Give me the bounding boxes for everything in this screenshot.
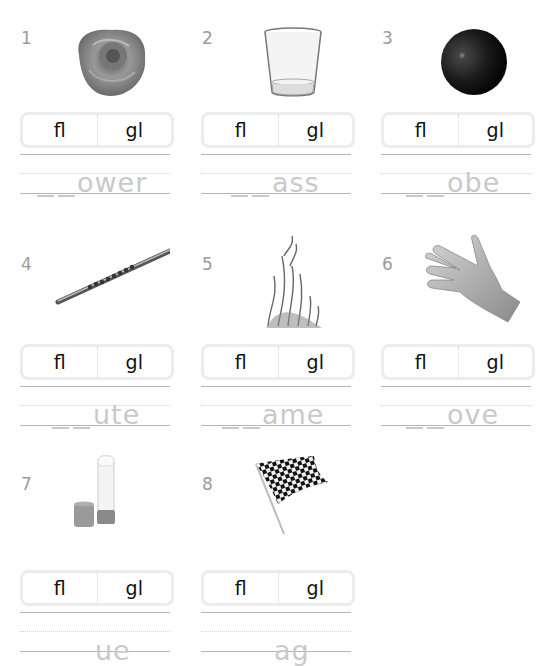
flame-icon bbox=[238, 226, 348, 331]
answer-blank-2[interactable] bbox=[252, 195, 269, 197]
choice-gl[interactable]: gl bbox=[458, 347, 533, 377]
top-rule bbox=[20, 386, 170, 387]
top-rule bbox=[20, 612, 170, 613]
item-number: 5 bbox=[202, 254, 213, 274]
exercise-item-7: 7 fl gl ue bbox=[15, 446, 185, 656]
exercise-item-1: 1 fl gl ower bbox=[15, 0, 185, 210]
choice-fl[interactable]: fl bbox=[204, 573, 278, 603]
answer-blank-2[interactable] bbox=[243, 427, 260, 429]
word-ending: ue bbox=[95, 637, 131, 664]
choice-gl[interactable]: gl bbox=[97, 573, 172, 603]
choice-fl[interactable]: fl bbox=[204, 347, 278, 377]
item-number: 2 bbox=[202, 28, 213, 48]
mid-rule bbox=[20, 631, 170, 632]
choice-gl[interactable]: gl bbox=[97, 115, 172, 145]
answer-blank-1[interactable] bbox=[406, 195, 423, 197]
top-rule bbox=[20, 154, 170, 155]
item-number: 6 bbox=[382, 254, 393, 274]
choice-gl[interactable]: gl bbox=[458, 115, 533, 145]
top-rule bbox=[201, 386, 351, 387]
exercise-item-8: 8 fl gl ag bbox=[196, 446, 366, 656]
mid-rule bbox=[201, 631, 351, 632]
choice-fl[interactable]: fl bbox=[204, 115, 278, 145]
exercise-item-5: 5 fl gl ame bbox=[196, 226, 366, 436]
checkered-flag-icon bbox=[236, 446, 346, 551]
choice-gl[interactable]: gl bbox=[278, 347, 353, 377]
choice-gl[interactable]: gl bbox=[97, 347, 172, 377]
glue-stick-icon bbox=[60, 446, 170, 551]
top-rule bbox=[201, 154, 351, 155]
answer-blank-1[interactable] bbox=[37, 195, 54, 197]
word-ending: ower bbox=[77, 169, 147, 196]
choice-box: fl gl bbox=[201, 112, 355, 148]
item-number: 7 bbox=[21, 474, 32, 494]
choice-box: fl gl bbox=[201, 570, 355, 606]
choice-box: fl gl bbox=[20, 112, 174, 148]
choice-gl[interactable]: gl bbox=[278, 573, 353, 603]
glass-icon bbox=[238, 0, 348, 105]
answer-blank-1[interactable] bbox=[406, 427, 423, 429]
ball-icon bbox=[418, 0, 528, 105]
choice-box: fl gl bbox=[20, 344, 174, 380]
choice-fl[interactable]: fl bbox=[23, 347, 97, 377]
word-ending: ove bbox=[447, 401, 499, 428]
word-ending: obe bbox=[447, 169, 500, 196]
choice-box: fl gl bbox=[201, 344, 355, 380]
exercise-item-3: 3 fl gl obe bbox=[376, 0, 539, 210]
item-number: 1 bbox=[21, 28, 32, 48]
choice-box: fl gl bbox=[381, 344, 535, 380]
choice-box: fl gl bbox=[20, 570, 174, 606]
top-rule bbox=[381, 154, 531, 155]
answer-blank-2[interactable] bbox=[58, 195, 75, 197]
rose-icon bbox=[57, 0, 167, 105]
answer-blank-2[interactable] bbox=[73, 427, 90, 429]
glove-icon bbox=[406, 226, 536, 331]
choice-fl[interactable]: fl bbox=[384, 347, 458, 377]
exercise-item-6: 6 fl gl ove bbox=[376, 226, 539, 436]
choice-fl[interactable]: fl bbox=[384, 115, 458, 145]
item-number: 8 bbox=[202, 474, 213, 494]
answer-blank-2[interactable] bbox=[427, 427, 444, 429]
answer-blank-1[interactable] bbox=[52, 427, 69, 429]
word-ending: ute bbox=[93, 401, 140, 428]
answer-blank-1[interactable] bbox=[222, 427, 239, 429]
choice-box: fl gl bbox=[381, 112, 535, 148]
word-ending: ame bbox=[262, 401, 324, 428]
answer-blank-1[interactable] bbox=[231, 195, 248, 197]
choice-fl[interactable]: fl bbox=[23, 573, 97, 603]
choice-gl[interactable]: gl bbox=[278, 115, 353, 145]
item-number: 3 bbox=[382, 28, 393, 48]
exercise-item-2: 2 fl gl ass bbox=[196, 0, 366, 210]
item-number: 4 bbox=[21, 254, 32, 274]
top-rule bbox=[381, 386, 531, 387]
flute-icon bbox=[40, 226, 170, 331]
word-ending: ag bbox=[274, 637, 310, 664]
answer-blank-2[interactable] bbox=[427, 195, 444, 197]
word-ending: ass bbox=[272, 169, 320, 196]
top-rule bbox=[201, 612, 351, 613]
exercise-item-4: 4 fl gl ute bbox=[15, 226, 185, 436]
choice-fl[interactable]: fl bbox=[23, 115, 97, 145]
